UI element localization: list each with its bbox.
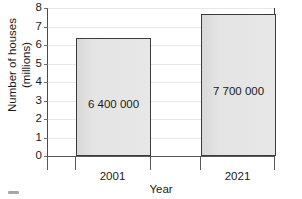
y-axis-tick-labels: 012345678 bbox=[26, 0, 42, 166]
x-axis-title: Year bbox=[47, 183, 275, 195]
bar-chart: Number of houses (millions) 012345678 6 … bbox=[0, 0, 302, 199]
y-tick-label: 4 bbox=[26, 76, 42, 88]
bar-value-label: 6 400 000 bbox=[77, 98, 150, 110]
y-tick-label: 6 bbox=[26, 39, 42, 51]
x-axis-separator bbox=[75, 156, 76, 170]
x-axis-separator bbox=[150, 156, 151, 170]
y-tick-label: 2 bbox=[26, 113, 42, 125]
y-tick-label: 7 bbox=[26, 21, 42, 33]
bar: 7 700 000 bbox=[201, 14, 276, 156]
bar-value-label: 7 700 000 bbox=[202, 85, 275, 97]
x-axis-separator bbox=[274, 156, 275, 170]
bars-layer: 6 400 0007 700 000 bbox=[48, 8, 274, 156]
y-tick-label: 0 bbox=[26, 150, 42, 162]
y-axis-title-line-1: Number of houses bbox=[6, 18, 20, 112]
x-axis-separator bbox=[47, 156, 48, 170]
x-axis-separators bbox=[47, 156, 275, 170]
x-axis-separator bbox=[200, 156, 201, 170]
y-tick-label: 1 bbox=[26, 132, 42, 144]
page-corner-mark bbox=[8, 191, 19, 194]
y-tick-label: 3 bbox=[26, 95, 42, 107]
x-tick-label: 2021 bbox=[225, 170, 251, 183]
x-axis-tick-labels: 20012021 bbox=[47, 170, 275, 184]
plot-area: 6 400 0007 700 000 bbox=[47, 8, 275, 156]
bar: 6 400 000 bbox=[76, 38, 151, 156]
x-tick-label: 2001 bbox=[100, 170, 126, 183]
y-tick-label: 8 bbox=[26, 2, 42, 14]
y-tick-label: 5 bbox=[26, 58, 42, 70]
